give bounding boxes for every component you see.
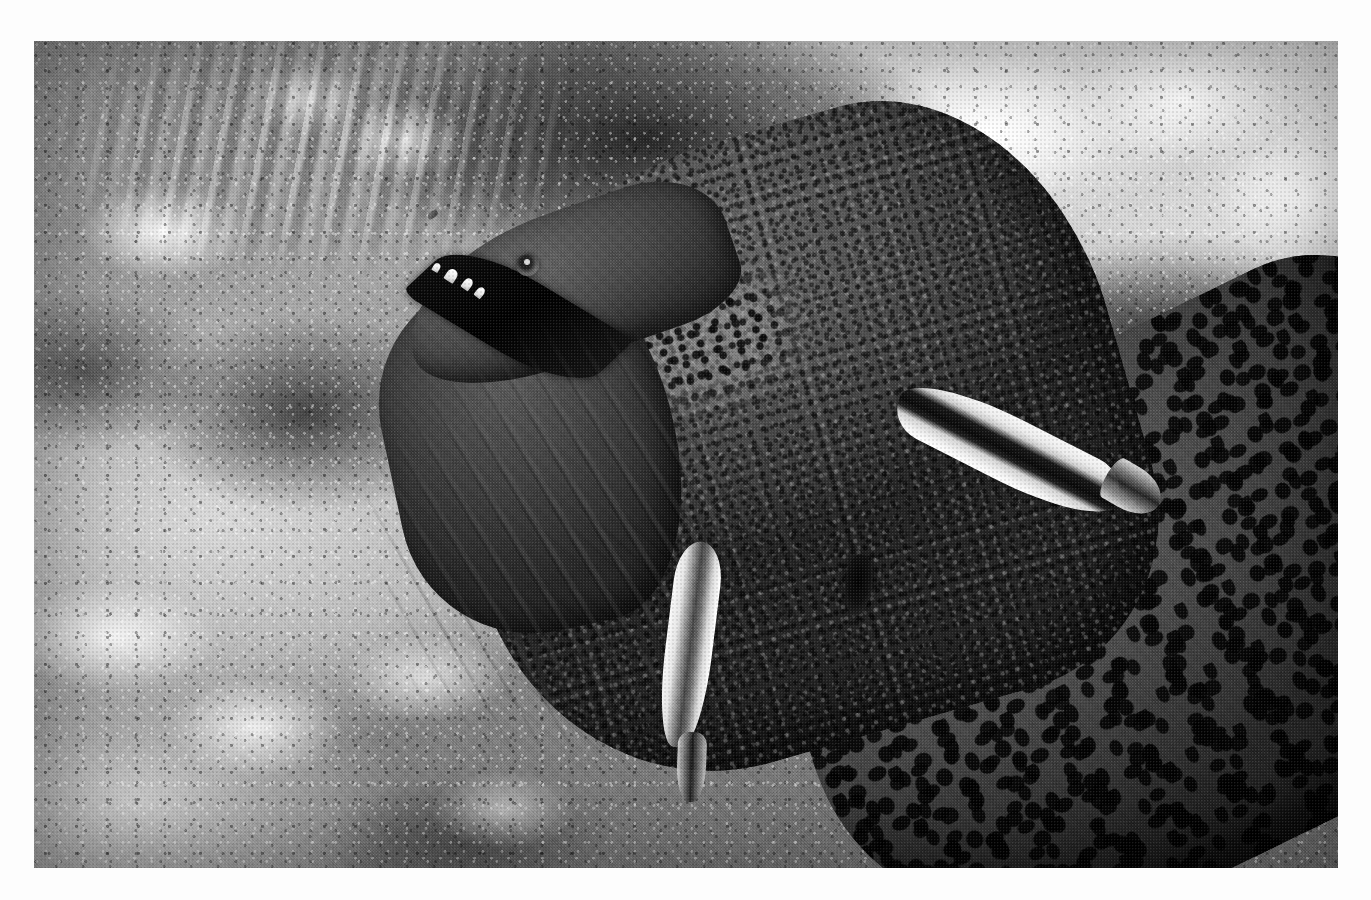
photograph [34,41,1338,868]
film-grain [34,41,1338,868]
page-root [0,0,1371,900]
